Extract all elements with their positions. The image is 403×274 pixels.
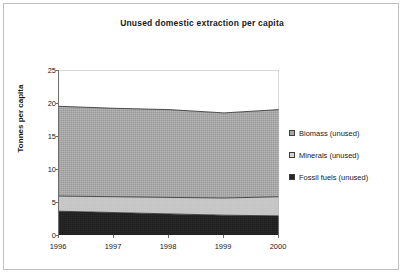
legend: Biomass (unused)Minerals (unused)Fossil … bbox=[289, 122, 368, 188]
legend-item-label: Minerals (unused) bbox=[299, 151, 359, 160]
chart-title: Unused domestic extraction per capita bbox=[4, 18, 400, 28]
x-tick-mark bbox=[223, 235, 224, 238]
legend-swatch-icon bbox=[289, 152, 295, 158]
y-tick-label: 20 bbox=[34, 99, 56, 108]
y-tick-label: 0 bbox=[34, 231, 56, 240]
x-tick-label: 1998 bbox=[148, 242, 188, 251]
x-tick-label: 1997 bbox=[93, 242, 133, 251]
x-tick-mark bbox=[58, 235, 59, 238]
legend-swatch-icon bbox=[289, 174, 295, 180]
chart-frame: Unused domestic extraction per capita To… bbox=[3, 3, 399, 270]
legend-item[interactable]: Minerals (unused) bbox=[289, 144, 368, 166]
x-axis-tick-labels: 19961997199819992000 bbox=[58, 238, 278, 252]
legend-item[interactable]: Fossil fuels (unused) bbox=[289, 166, 368, 188]
y-tick-label: 25 bbox=[34, 66, 56, 75]
x-tick-label: 1996 bbox=[38, 242, 78, 251]
area-band-biomass-unused bbox=[59, 106, 279, 198]
plot-area bbox=[58, 70, 278, 235]
legend-item-label: Biomass (unused) bbox=[299, 129, 359, 138]
legend-swatch-icon bbox=[289, 130, 295, 136]
x-tick-mark bbox=[168, 235, 169, 238]
y-tick-label: 15 bbox=[34, 132, 56, 141]
y-axis-tick-labels: 0510152025 bbox=[30, 70, 56, 235]
x-tick-mark bbox=[113, 235, 114, 238]
y-axis-title: Tonnes per capita bbox=[16, 64, 25, 174]
y-tick-label: 10 bbox=[34, 165, 56, 174]
x-tick-mark bbox=[278, 235, 279, 238]
x-tick-label: 2000 bbox=[258, 242, 298, 251]
legend-item-label: Fossil fuels (unused) bbox=[299, 173, 368, 182]
stacked-area-plot bbox=[59, 70, 279, 235]
x-tick-label: 1999 bbox=[203, 242, 243, 251]
y-tick-label: 5 bbox=[34, 198, 56, 207]
legend-item[interactable]: Biomass (unused) bbox=[289, 122, 368, 144]
